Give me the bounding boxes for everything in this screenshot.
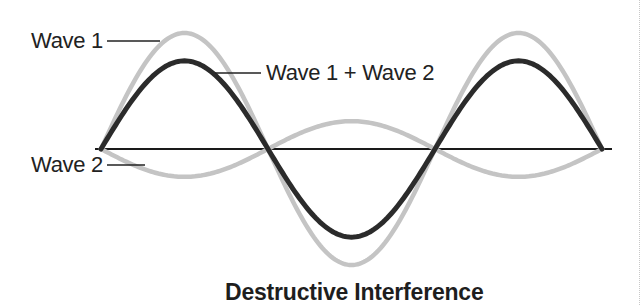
edge-dotted-border (639, 0, 640, 305)
sum-label: Wave 1 + Wave 2 (266, 62, 434, 84)
wave-1-label: Wave 1 (31, 30, 103, 52)
wave-2-label: Wave 2 (31, 154, 103, 176)
diagram-title: Destructive Interference (225, 279, 484, 305)
